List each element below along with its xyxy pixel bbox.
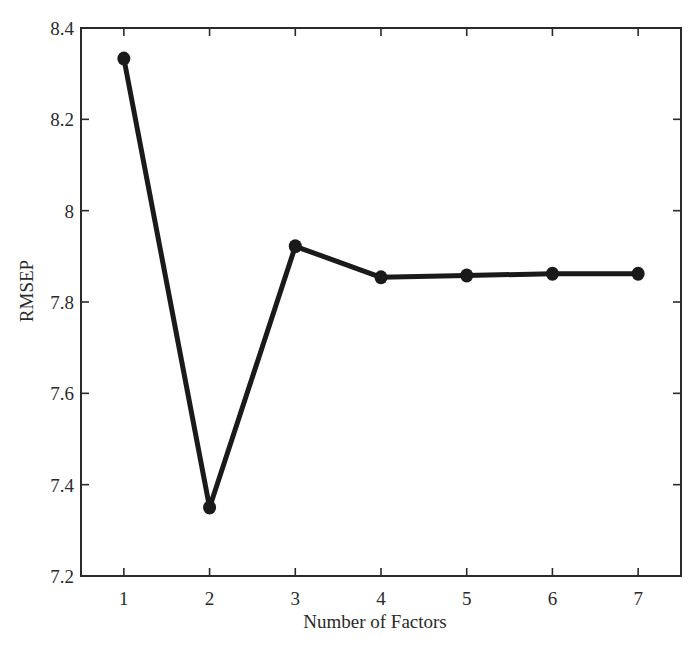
rmsep-line-chart: 1234567 7.27.47.67.888.28.4 Number of Fa… [0,0,695,646]
data-point-marker [289,239,302,253]
data-point-marker [632,267,645,281]
y-tick-label: 8 [65,201,75,222]
x-tick-label: 7 [633,588,643,609]
y-axis-ticks: 7.27.47.67.888.28.4 [50,18,681,587]
x-tick-label: 5 [462,588,472,609]
data-point-marker [460,269,473,283]
y-axis-label: RMSEP [16,260,37,322]
x-axis-ticks: 1234567 [119,28,643,609]
x-axis-label: Number of Factors [303,611,447,632]
x-tick-label: 1 [119,588,129,609]
y-tick-label: 7.6 [50,383,74,404]
y-tick-label: 7.2 [50,566,74,587]
data-series [117,52,644,515]
y-tick-label: 7.8 [50,292,74,313]
data-point-marker [203,501,216,515]
data-point-marker [375,270,388,284]
x-tick-label: 6 [548,588,558,609]
x-tick-label: 3 [291,588,301,609]
data-point-marker [117,52,130,66]
y-tick-label: 8.4 [50,18,74,39]
data-point-marker [546,267,559,281]
y-tick-label: 7.4 [50,475,74,496]
x-tick-label: 2 [205,588,215,609]
x-tick-label: 4 [376,588,386,609]
y-tick-label: 8.2 [50,109,74,130]
